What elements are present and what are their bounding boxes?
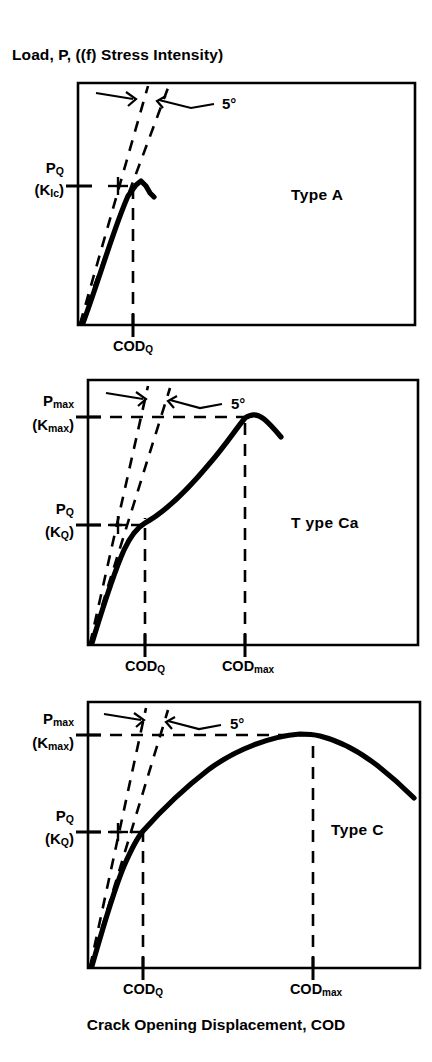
panel-type-c: P_max Pmax (K_max) (Kmax) P_Q PQ (K_Q) (… (0, 690, 432, 1020)
x-tick-label-cod-max: COD_max CODmax (290, 981, 342, 998)
panel-type-a: P_Q PQ (K_Ic) (KIc) COD_Q CODQ 5° Type A (0, 0, 432, 380)
secant-leader (166, 717, 221, 729)
tangent-line (80, 86, 148, 324)
tangent-leader (96, 92, 136, 106)
angle-label-type-c: 5° (230, 715, 244, 732)
y-label-k-ic: (K_Ic) (KIc) (0, 182, 64, 199)
y-label-k-q: (K_Q) (KQ) (6, 831, 74, 848)
tangent-leader (104, 713, 144, 727)
tangent-line (90, 386, 148, 644)
y-label-p-max: P_max Pmax (2, 711, 74, 728)
angle-label-type-a: 5° (222, 95, 236, 112)
panel-label-type-ca: T ype Ca (291, 514, 359, 532)
load-curve-type-c (92, 734, 414, 966)
figure-root: Load, P, ((f) Stress Intensity) (0, 0, 432, 1062)
x-tick-label-cod-q: COD_Q CODQ (125, 658, 165, 675)
y-label-p-max: P_max Pmax (2, 393, 74, 410)
panel-label-type-c: Type C (331, 821, 384, 839)
load-curve-type-ca (92, 415, 281, 643)
load-curve-type-a (83, 181, 154, 323)
secant-leader (168, 396, 222, 408)
p-q-intersection-marker (108, 177, 128, 195)
panel-type-a-graphics (0, 0, 432, 380)
x-tick-label-cod-max: COD_max CODmax (222, 658, 274, 675)
angle-label-type-ca: 5° (231, 395, 245, 412)
panel-type-ca: P_max Pmax (K_max) (Kmax) P_Q PQ (K_Q) (… (0, 355, 432, 695)
y-label-p-q: P_Q PQ (6, 160, 64, 177)
panel-frame (88, 380, 418, 645)
panel-frame (78, 83, 415, 325)
x-tick-label-cod-q: COD_Q CODQ (113, 338, 153, 355)
tangent-leader (106, 392, 146, 406)
y-label-p-q: P_Q PQ (12, 501, 74, 518)
y-label-k-q: (K_Q) (KQ) (6, 524, 74, 541)
y-label-k-max: (K_max) (Kmax) (0, 735, 74, 752)
y-label-k-max: (K_max) (Kmax) (0, 417, 74, 434)
x-tick-label-cod-q: COD_Q CODQ (123, 981, 163, 998)
panel-label-type-a: Type A (291, 186, 343, 204)
x-axis-title: Crack Opening Displacement, COD (0, 1016, 432, 1034)
y-label-p-q: P_Q PQ (12, 808, 74, 825)
